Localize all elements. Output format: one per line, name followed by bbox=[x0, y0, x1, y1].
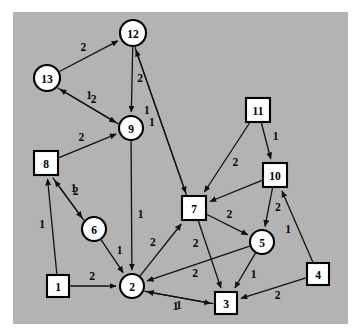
graph-node-4[interactable]: 4 bbox=[307, 263, 329, 285]
graph-node-10[interactable]: 10 bbox=[263, 163, 287, 187]
edge-weight-label: 2 bbox=[275, 201, 281, 213]
edge-weight-label: 1 bbox=[149, 116, 155, 128]
edge-weight-label: 1 bbox=[138, 208, 144, 220]
node-label: 2 bbox=[129, 281, 135, 293]
edge-weight-label: 1 bbox=[285, 223, 291, 235]
graph-node-1[interactable]: 1 bbox=[47, 275, 69, 297]
node-label: 6 bbox=[91, 224, 97, 236]
node-label: 10 bbox=[269, 170, 281, 182]
edge-weight-label: 2 bbox=[137, 72, 143, 84]
node-label: 1 bbox=[55, 281, 61, 293]
edge-weight-label: 2 bbox=[275, 289, 281, 301]
node-label: 7 bbox=[191, 203, 197, 215]
edge-weight-label: 2 bbox=[80, 41, 86, 53]
node-label: 5 bbox=[259, 237, 265, 249]
graph-node-2[interactable]: 2 bbox=[120, 274, 144, 298]
edge-weight-label: 1 bbox=[39, 218, 45, 230]
node-label: 12 bbox=[127, 28, 139, 40]
node-label: 9 bbox=[128, 123, 134, 135]
graph-diagram: 2211211212121221212221211 12345678910111… bbox=[0, 0, 359, 334]
graph-node-7[interactable]: 7 bbox=[182, 196, 206, 220]
edge-weight-label: 2 bbox=[78, 131, 84, 143]
graph-edge bbox=[131, 141, 132, 270]
edge-weight-label: 2 bbox=[89, 270, 95, 282]
edge-weight-label: 1 bbox=[117, 244, 123, 256]
node-label: 4 bbox=[315, 269, 321, 281]
graph-node-5[interactable]: 5 bbox=[250, 230, 274, 254]
node-label: 8 bbox=[43, 158, 49, 170]
node-label: 3 bbox=[223, 298, 229, 310]
graph-node-9[interactable]: 9 bbox=[119, 116, 143, 140]
graph-node-6[interactable]: 6 bbox=[82, 217, 106, 241]
edge-weight-label: 1 bbox=[86, 89, 92, 101]
edge-weight-label: 1 bbox=[251, 268, 257, 280]
edge-weight-label: 2 bbox=[232, 156, 238, 168]
edge-weight-label: 1 bbox=[273, 130, 279, 142]
edge-weight-label: 1 bbox=[173, 300, 179, 312]
graph-node-11[interactable]: 11 bbox=[246, 98, 270, 122]
graph-node-13[interactable]: 13 bbox=[34, 65, 60, 91]
graph-svg: 2211211212121221212221211 12345678910111… bbox=[0, 0, 359, 334]
graph-node-12[interactable]: 12 bbox=[120, 20, 146, 46]
graph-node-3[interactable]: 3 bbox=[215, 292, 237, 314]
edge-weight-label: 2 bbox=[226, 208, 232, 220]
edge-weight-label: 2 bbox=[192, 267, 198, 279]
edge-weight-label: 2 bbox=[193, 237, 199, 249]
edge-weight-label: 2 bbox=[150, 236, 156, 248]
edge-weight-label: 1 bbox=[144, 104, 150, 116]
node-label: 13 bbox=[41, 73, 53, 85]
graph-node-8[interactable]: 8 bbox=[34, 151, 58, 175]
edge-weight-label: 2 bbox=[73, 185, 79, 197]
node-label: 11 bbox=[253, 105, 264, 117]
